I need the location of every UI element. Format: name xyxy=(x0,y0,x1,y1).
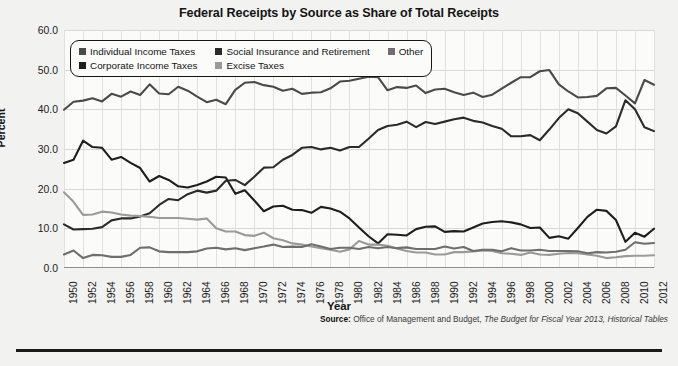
legend-label: Individual Income Taxes xyxy=(90,45,195,58)
legend-label: Excise Taxes xyxy=(226,59,283,72)
source-citation: The Budget for Fiscal Year 2013, Histori… xyxy=(484,314,668,324)
y-tick-label: 0.0 xyxy=(4,263,58,274)
y-tick-label: 60.0 xyxy=(4,25,58,36)
source-label: Source: xyxy=(320,314,351,324)
legend-swatch-icon xyxy=(79,62,86,69)
series-line-corporate-income-taxes xyxy=(64,141,654,244)
legend-item-individual-income-taxes[interactable]: Individual Income Taxes xyxy=(79,45,197,58)
bottom-divider xyxy=(16,349,662,352)
legend-item-social-insurance-and-retirement[interactable]: Social Insurance and Retirement xyxy=(215,45,369,58)
legend-item-corporate-income-taxes[interactable]: Corporate Income Taxes xyxy=(79,59,197,72)
legend-item-excise-taxes[interactable]: Excise Taxes xyxy=(215,59,369,72)
y-tick-label: 40.0 xyxy=(4,104,58,115)
gridline-vertical xyxy=(654,30,655,268)
chart-figure: Federal Receipts by Source as Share of T… xyxy=(0,0,678,366)
legend-label: Corporate Income Taxes xyxy=(90,59,197,72)
legend-label: Other xyxy=(399,45,424,58)
y-tick-label: 10.0 xyxy=(4,223,58,234)
series-line-social-insurance-and-retirement xyxy=(64,100,654,229)
y-axis-title: Percent xyxy=(0,109,7,148)
legend-item-other[interactable]: Other xyxy=(388,45,424,58)
series-line-other xyxy=(64,242,654,258)
chart-title: Federal Receipts by Source as Share of T… xyxy=(0,6,678,20)
legend-swatch-icon xyxy=(215,62,222,69)
legend-swatch-icon xyxy=(79,48,86,55)
y-tick-label: 20.0 xyxy=(4,183,58,194)
legend-swatch-icon xyxy=(215,48,222,55)
chart-legend: Individual Income TaxesSocial Insurance … xyxy=(70,40,432,77)
source-note: Source: Office of Management and Budget,… xyxy=(0,314,668,324)
x-axis-title: Year xyxy=(0,300,678,312)
legend-label: Social Insurance and Retirement xyxy=(226,45,369,58)
x-axis-line xyxy=(64,267,654,269)
source-text: Office of Management and Budget, xyxy=(351,314,484,324)
y-tick-label: 50.0 xyxy=(4,64,58,75)
legend-swatch-icon xyxy=(388,48,395,55)
y-tick-label: 30.0 xyxy=(4,144,58,155)
